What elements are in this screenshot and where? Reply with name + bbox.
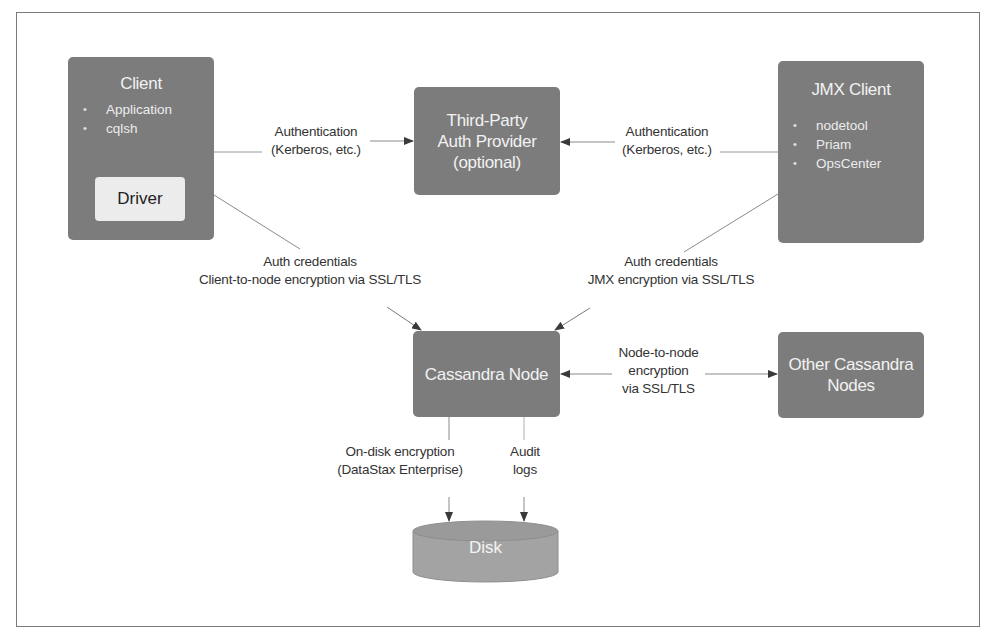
edge-label-client-node: Auth credentials Client-to-node encrypti… [185,253,435,289]
edge-label-jmx-auth: Authentication (Kerberos, etc.) [613,123,721,159]
jmx-client-box: JMX Client nodetool Priam OpsCenter [778,61,924,243]
edge-label-audit: Audit logs [500,443,550,479]
edge-label-line: JMX encryption via SSL/TLS [576,271,766,289]
edge-label-line: (Kerberos, etc.) [613,141,721,159]
cassandra-node-box: Cassandra Node [413,331,560,417]
edge-label-line: Authentication [613,123,721,141]
cassandra-node-title: Cassandra Node [425,364,548,385]
jmx-client-item: Priam [778,135,924,154]
edge-jmx-node-line-a [684,194,778,252]
edge-label-node-to-node: Node-to-node encryption via SSL/TLS [612,344,705,398]
client-item: cqlsh [68,119,214,138]
driver-box: Driver [95,177,185,221]
other-nodes-line: Other Cassandra [789,354,914,375]
client-item: Application [68,100,214,119]
auth-provider-line: Third-Party [447,110,528,131]
edge-label-on-disk: On-disk encryption (DataStax Enterprise) [330,443,470,479]
auth-provider-box: Third-Party Auth Provider (optional) [414,87,560,195]
auth-provider-line: (optional) [453,152,521,173]
edge-label-line: Audit [500,443,550,461]
auth-provider-line: Auth Provider [437,131,536,152]
edge-label-line: logs [500,461,550,479]
edge-label-line: (DataStax Enterprise) [330,461,470,479]
edge-label-jmx-node: Auth credentials JMX encryption via SSL/… [576,253,766,289]
jmx-client-item: OpsCenter [778,154,924,173]
edge-client-node-line-b [387,307,421,330]
disk-label: Disk [413,538,558,558]
edge-jmx-node-line-b [555,308,590,330]
edge-label-line: via SSL/TLS [612,380,705,398]
edge-label-client-auth: Authentication (Kerberos, etc.) [262,123,370,159]
edge-label-line: On-disk encryption [330,443,470,461]
edge-label-line: Auth credentials [576,253,766,271]
edge-client-node-line-a [214,195,300,249]
jmx-client-title: JMX Client [811,79,890,100]
other-nodes-box: Other Cassandra Nodes [778,332,924,418]
jmx-client-item: nodetool [778,116,924,135]
edge-label-line: Client-to-node encryption via SSL/TLS [185,271,435,289]
edge-label-line: (Kerberos, etc.) [262,141,370,159]
edge-label-line: encryption [612,362,705,380]
jmx-client-item-list: nodetool Priam OpsCenter [778,116,924,173]
edge-label-line: Node-to-node [612,344,705,362]
edge-label-line: Auth credentials [185,253,435,271]
edge-label-line: Authentication [262,123,370,141]
client-title: Client [120,73,162,94]
other-nodes-line: Nodes [827,375,875,396]
client-box: Client Application cqlsh Driver [68,57,214,240]
client-item-list: Application cqlsh [68,100,214,138]
